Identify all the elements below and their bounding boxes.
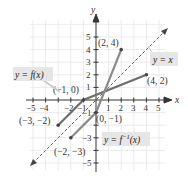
f-inverse-tag-superscript: −1: [122, 133, 130, 140]
f-inverse-tag-argument: (x): [130, 135, 141, 146]
x-tick-label: −4: [39, 103, 49, 113]
y-tick-label: 4: [86, 45, 91, 55]
f-inverse-tag: y = f−1(x): [102, 132, 150, 146]
point-marker: [56, 123, 60, 127]
svg-text:y = f−1(x): y = f−1(x): [103, 133, 140, 146]
y-tick-label: −5: [82, 158, 92, 168]
y-tick-label: −3: [82, 133, 92, 143]
f-tag: y = f(x): [13, 67, 53, 81]
x-tick-label: 2: [119, 103, 124, 113]
point-label: (−2, −3): [54, 147, 85, 158]
x-axis-label: x: [174, 95, 180, 105]
point-marker: [82, 98, 86, 102]
point-marker: [69, 136, 73, 140]
y-tick-label: 2: [86, 70, 91, 80]
point-label: (4, 2): [147, 76, 168, 87]
point-label: (2, 4): [98, 38, 119, 49]
point-marker: [119, 48, 123, 52]
identity-tag-label: y = x: [152, 55, 173, 65]
point-label: (−3, −2): [19, 116, 50, 127]
y-tick-label: 5: [86, 32, 91, 42]
x-tick-label: 5: [156, 103, 161, 113]
x-tick-label: 4: [144, 103, 149, 113]
f-tag-label: y = f(x): [14, 70, 44, 81]
x-tick-label: 3: [131, 103, 136, 113]
x-axis-arrow-icon: [164, 97, 172, 103]
y-axis-arrow-icon: [93, 14, 99, 22]
x-tick-label: 1: [106, 103, 111, 113]
y-tick-label: 1: [86, 82, 91, 92]
identity-tag: y = x: [150, 52, 178, 66]
f-inverse-tag-label: y = f: [103, 135, 123, 145]
function-inverse-graph: x y −5 −4 −2 −1 1 2 3 4 5 5 4 3 2 1 −1 −…: [0, 0, 188, 191]
y-tick-label: 3: [86, 57, 91, 67]
x-tick-label: −5: [26, 103, 36, 113]
x-tick-labels: −5 −4 −2 −1 1 2 3 4 5: [26, 103, 161, 113]
point-label: (0, −1): [96, 114, 122, 125]
y-axis-label: y: [90, 5, 96, 15]
